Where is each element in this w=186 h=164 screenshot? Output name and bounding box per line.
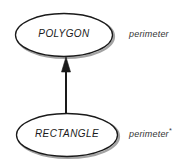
class-hierarchy-diagram: POLYGON RECTANGLE perimeter perimeter* [0, 0, 186, 164]
rectangle-member-label: perimeter* [129, 129, 172, 139]
rectangle-member-marker: * [169, 127, 172, 134]
inheritance-arrowhead-icon [62, 57, 71, 72]
polygon-node-ellipse[interactable] [16, 14, 113, 57]
diagram-canvas [0, 0, 186, 164]
polygon-member-label: perimeter [129, 29, 169, 39]
rectangle-node-ellipse[interactable] [17, 114, 118, 157]
polygon-member-name: perimeter [129, 29, 169, 39]
rectangle-member-name: perimeter [129, 129, 169, 139]
